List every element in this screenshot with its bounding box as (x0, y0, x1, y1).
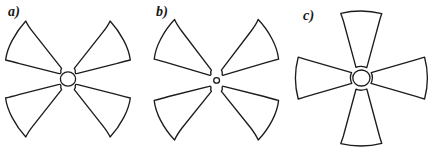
figure-root: a) b) c) (0, 0, 434, 155)
center-hub-a (60, 72, 75, 86)
petal-upper-left (6, 21, 62, 74)
petal-lower-left (154, 86, 211, 140)
petal-top (341, 11, 382, 68)
petal-upper-left (154, 20, 211, 76)
panel-b: b) (146, 0, 289, 155)
center-hub-c (353, 70, 370, 86)
panel-a: a) (0, 0, 146, 155)
panel-c: c) (289, 0, 434, 155)
petal-lower-left (6, 84, 62, 137)
petal-right (371, 57, 427, 99)
petal-lower-right (221, 86, 278, 140)
petal-bottom (341, 89, 382, 146)
petal-left (295, 57, 351, 99)
center-hub-b (214, 78, 220, 83)
petal-upper-right (221, 20, 278, 76)
petal-lower-right (74, 84, 130, 137)
panel-b-rotor (146, 0, 289, 155)
petal-upper-right (74, 21, 130, 74)
panel-c-rotor (289, 0, 434, 155)
panel-a-rotor (0, 0, 146, 155)
